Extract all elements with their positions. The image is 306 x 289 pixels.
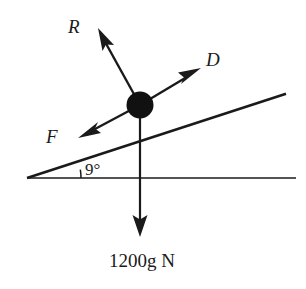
reaction-vector-arrowhead <box>98 28 114 51</box>
weight-label: 1200g N <box>109 250 175 271</box>
incline-surface-line <box>20 94 292 178</box>
free-body-diagram-figure: 9° 1200g N R D F <box>0 0 306 289</box>
friction-label: F <box>45 126 58 147</box>
angle-label: 9° <box>85 160 100 179</box>
friction-vector-arrowhead <box>78 122 101 138</box>
diagram-canvas: 9° 1200g N R D F <box>0 0 306 289</box>
angle-arc <box>80 170 81 178</box>
reaction-label: R <box>67 16 80 37</box>
particle-ball <box>127 92 154 119</box>
driving-label: D <box>205 49 220 70</box>
